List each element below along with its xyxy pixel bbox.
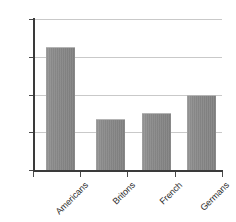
x-axis-line [33,170,223,172]
bar-germans [187,95,216,171]
y-axis-line [33,18,35,171]
bar-french [142,113,171,170]
gridline-80 [33,19,222,20]
bar-britons [96,119,125,170]
x-tick-mark [33,172,34,177]
plot-area [33,19,222,170]
bar-chart: 80% 60% 40% 20% 0% Americans Britons Fre… [0,0,236,222]
x-tick-mark [175,172,176,177]
x-tick-label-americans: Americans [24,180,90,222]
x-tick-mark [127,172,128,177]
x-tick-mark [222,172,223,177]
bar-americans [46,47,75,170]
x-tick-mark [80,172,81,177]
